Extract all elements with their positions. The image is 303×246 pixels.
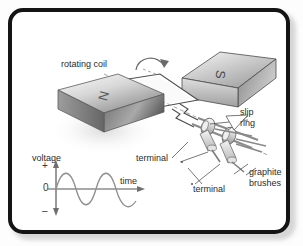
voltage-minus-label: – (42, 205, 48, 216)
rotating-coil-label: rotating coil (61, 59, 107, 70)
slip-ring-label-line1: slip (240, 107, 254, 118)
voltage-time-graph (48, 160, 145, 216)
graphite-brushes-label-line1: graphite (249, 167, 282, 178)
brush-2 (220, 140, 237, 163)
voltage-plus-label: + (42, 160, 48, 171)
slip-ring-label-line2: ring (240, 118, 255, 129)
diagram-stage: S N (12, 12, 286, 230)
figure-root: S N (0, 0, 303, 246)
figure-frame: S N (8, 8, 290, 234)
voltage-zero-label: 0 (43, 182, 49, 193)
rotation-arrow (136, 58, 169, 75)
terminal-label-upper: terminal (136, 153, 168, 164)
time-axis-arrow (137, 186, 145, 192)
graphite-brushes-label-line2: brushes (249, 178, 281, 189)
terminal-label-lower: terminal (193, 184, 225, 195)
time-axis-label: time (120, 176, 137, 187)
voltage-axis-arrow-down (53, 208, 59, 216)
